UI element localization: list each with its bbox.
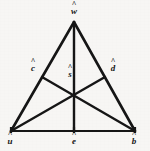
geometry-figure: ^w^c^s^d^u^e^b bbox=[0, 0, 150, 151]
label-glyph: s bbox=[63, 70, 77, 79]
label-glyph: u bbox=[3, 137, 17, 146]
label-glyph: e bbox=[67, 137, 81, 146]
label-centroid: ^s bbox=[63, 66, 77, 79]
label-apex-vertex: ^w bbox=[67, 3, 81, 16]
label-glyph: w bbox=[67, 7, 81, 16]
label-base-midpoint: ^e bbox=[67, 133, 81, 146]
label-right-side-midpoint: ^d bbox=[106, 60, 120, 73]
label-bottom-left-vertex: ^u bbox=[3, 133, 17, 146]
label-glyph: d bbox=[106, 64, 120, 73]
label-glyph: c bbox=[26, 64, 40, 73]
label-glyph: b bbox=[127, 137, 141, 146]
label-left-side-midpoint: ^c bbox=[26, 60, 40, 73]
label-bottom-right-vertex: ^b bbox=[127, 133, 141, 146]
